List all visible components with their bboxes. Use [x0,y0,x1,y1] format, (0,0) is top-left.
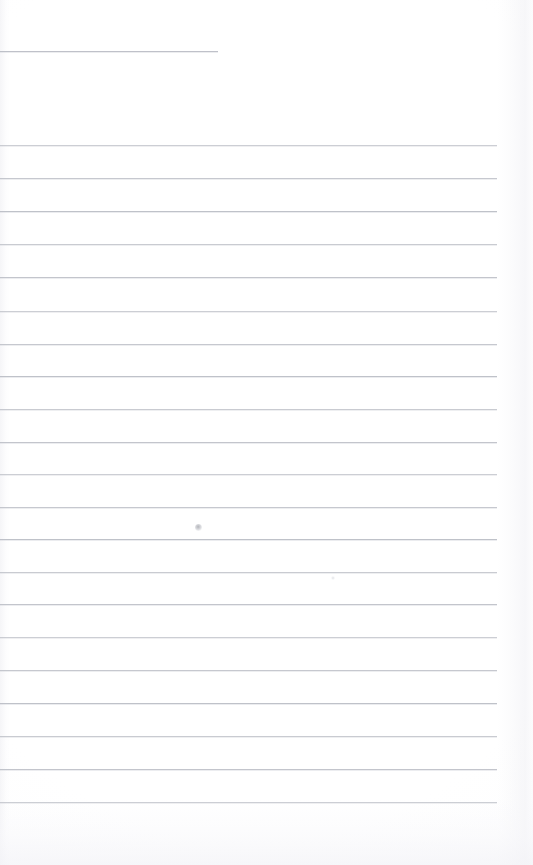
ruled-line [0,637,497,638]
ruled-line [0,178,497,179]
ruled-line [0,474,497,475]
ruled-line [0,277,497,278]
page-mark-speck-lower [331,576,335,580]
ruled-line [0,442,497,443]
ruled-line [0,670,497,671]
ruled-line [0,507,497,508]
ruled-line [0,409,497,410]
ruled-line [0,145,497,146]
ruled-line [0,376,497,377]
ruled-line [0,802,497,803]
ruled-line [0,211,497,212]
ruled-line [0,539,497,540]
ruled-line [0,311,497,312]
ruled-line [0,703,497,704]
scanned-page [0,0,533,865]
ruled-line [0,572,497,573]
header-rule [0,51,218,52]
ruled-line [0,344,497,345]
ruled-line [0,736,497,737]
ruled-line [0,604,497,605]
ruled-line [0,769,497,770]
page-mark-smudge-upper [195,524,202,531]
scan-artifact-bottom-edge [0,799,533,865]
scan-artifact-right-margin [497,0,533,865]
ruled-line [0,244,497,245]
